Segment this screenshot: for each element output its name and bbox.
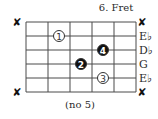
finger-number: 1 xyxy=(56,32,62,42)
fretboard-grid xyxy=(26,22,136,92)
chord-diagram: 6. Fret ✘✘✘✘ E♭D♭GE♭ 1423 (no 5) xyxy=(0,0,158,119)
finger-number: 2 xyxy=(78,60,84,70)
muted-x-icon: ✘ xyxy=(137,86,146,99)
string-note-label: D♭ xyxy=(139,44,153,57)
string-note-labels: E♭D♭GE♭ xyxy=(139,30,153,85)
finger-positions: 1423 xyxy=(54,31,109,84)
finger-dot-1: 1 xyxy=(54,31,65,42)
muted-x-icon: ✘ xyxy=(12,86,21,99)
muted-x-icon: ✘ xyxy=(137,16,146,29)
muted-string-markers: ✘✘✘✘ xyxy=(12,16,146,99)
fret-position-label: 6. Fret xyxy=(99,2,133,13)
string-note-label: E♭ xyxy=(139,30,152,43)
finger-dot-2: 2 xyxy=(76,59,87,70)
footer-note: (no 5) xyxy=(65,99,95,110)
finger-dot-4: 4 xyxy=(98,45,109,56)
finger-number: 3 xyxy=(100,74,106,84)
string-note-label: G xyxy=(139,58,148,71)
muted-x-icon: ✘ xyxy=(12,16,21,29)
finger-dot-3: 3 xyxy=(98,73,109,84)
finger-number: 4 xyxy=(100,46,106,56)
string-note-label: E♭ xyxy=(139,72,152,85)
